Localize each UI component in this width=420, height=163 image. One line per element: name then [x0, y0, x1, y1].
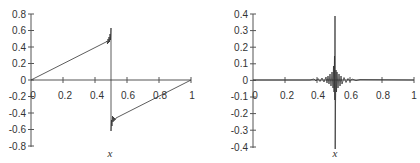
- svg-text:0.8: 0.8: [12, 9, 26, 20]
- svg-text:-0.8: -0.8: [9, 141, 27, 152]
- svg-text:0.4: 0.4: [311, 90, 325, 101]
- svg-text:0.2: 0.2: [58, 90, 72, 101]
- svg-text:0: 0: [242, 75, 248, 86]
- right-chart: 0.4 0.3 0.2 0.1 0 -0.1 -0.2 -0.3 -0.4 0 …: [231, 9, 417, 160]
- svg-text:0.1: 0.1: [234, 58, 248, 69]
- svg-text:0.6: 0.6: [344, 90, 358, 101]
- svg-text:1: 1: [189, 90, 195, 101]
- left-y-tick-labels: 0.8 0.6 0.4 0.2 0 -0.2 -0.4 -0.6 -0.8: [9, 9, 27, 152]
- svg-text:0: 0: [252, 90, 258, 101]
- svg-text:0.2: 0.2: [234, 42, 248, 53]
- svg-text:1: 1: [411, 90, 417, 101]
- right-y-tick-labels: 0.4 0.3 0.2 0.1 0 -0.1 -0.2 -0.3 -0.4: [231, 9, 249, 153]
- svg-text:0: 0: [30, 90, 36, 101]
- right-x-axis-title: x: [332, 147, 338, 159]
- svg-text:0.2: 0.2: [12, 58, 26, 69]
- svg-text:-0.4: -0.4: [231, 142, 249, 153]
- svg-text:0.6: 0.6: [121, 90, 135, 101]
- svg-text:-0.1: -0.1: [231, 91, 249, 102]
- left-x-axis-title: x: [107, 147, 113, 159]
- svg-text:0: 0: [20, 75, 26, 86]
- left-x-tick-labels: 0 0.2 0.4 0.6 0.8 1: [30, 90, 195, 101]
- svg-text:0.6: 0.6: [12, 25, 26, 36]
- figure: 0.8 0.6 0.4 0.2 0 -0.2 -0.4 -0.6 -0.8 0 …: [0, 0, 420, 163]
- svg-text:-0.6: -0.6: [9, 124, 27, 135]
- svg-text:-0.3: -0.3: [231, 125, 249, 136]
- svg-text:0.4: 0.4: [90, 90, 104, 101]
- svg-text:0.2: 0.2: [280, 90, 294, 101]
- right-series-line: [253, 16, 414, 149]
- svg-text:0.4: 0.4: [12, 42, 26, 53]
- svg-text:-0.4: -0.4: [9, 108, 27, 119]
- svg-text:0.4: 0.4: [234, 9, 248, 20]
- svg-text:0.3: 0.3: [234, 25, 248, 36]
- left-chart: 0.8 0.6 0.4 0.2 0 -0.2 -0.4 -0.6 -0.8 0 …: [9, 9, 195, 160]
- svg-text:0.8: 0.8: [376, 90, 390, 101]
- svg-text:-0.2: -0.2: [9, 91, 27, 102]
- svg-text:-0.2: -0.2: [231, 108, 249, 119]
